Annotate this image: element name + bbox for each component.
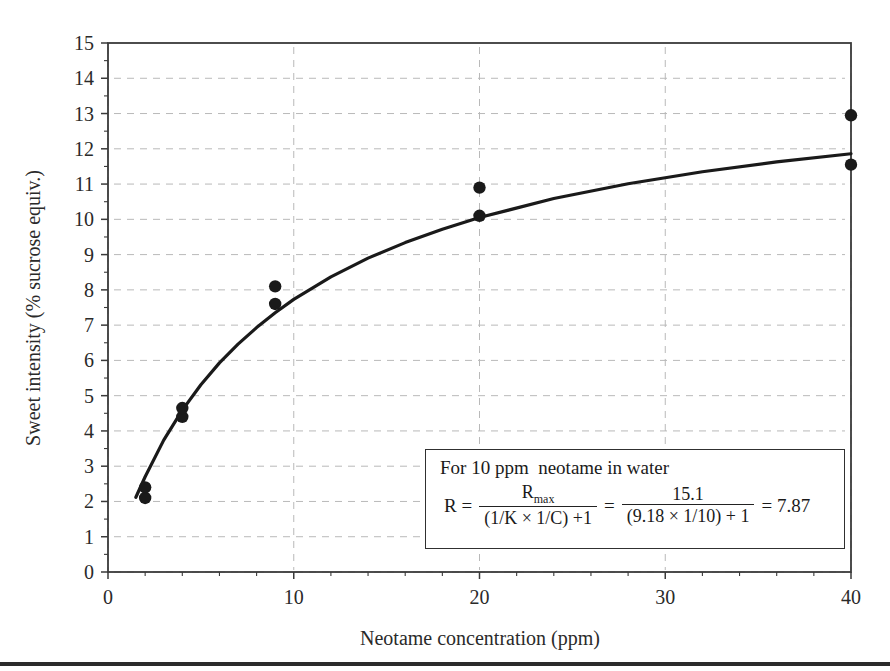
data-point-marker: [473, 181, 485, 193]
y-tick-label: 6: [84, 349, 94, 371]
data-point-marker: [176, 402, 188, 414]
y-tick-label: 0: [84, 561, 94, 583]
y-tick-label: 14: [74, 67, 94, 89]
equation-middle-equals: =: [600, 495, 619, 517]
y-tick-label: 8: [84, 279, 94, 301]
x-tick-label: 10: [284, 586, 304, 608]
equation-fraction-general: Rmax (1/K × 1/C) +1: [479, 483, 597, 529]
equation-fraction-numeric: 15.1 (9.18 × 1/10) + 1: [622, 485, 755, 528]
y-tick-label: 7: [84, 314, 94, 336]
fraction-numerator-rmax: Rmax: [516, 483, 561, 506]
x-tick-label: 40: [841, 586, 861, 608]
y-tick-label: 9: [84, 244, 94, 266]
equation-result: = 7.87: [757, 495, 814, 517]
y-tick-label: 4: [84, 420, 94, 442]
y-axis-title: Sweet intensity (% sucrose equiv.): [22, 170, 45, 446]
x-axis-title: Neotame concentration (ppm): [360, 627, 600, 650]
figure-container: 0123456789101112131415010203040 Neotame …: [0, 0, 890, 671]
y-tick-label: 3: [84, 455, 94, 477]
rmax-base: R: [522, 482, 534, 502]
annotation-line-1: For 10 ppm neotame in water: [440, 458, 834, 479]
data-point-marker: [845, 158, 857, 170]
equation-annotation-box: For 10 ppm neotame in water R = Rmax (1/…: [425, 449, 845, 549]
data-point-marker: [473, 210, 485, 222]
y-tick-label: 13: [74, 103, 94, 125]
x-tick-label: 0: [103, 586, 113, 608]
y-tick-label: 2: [84, 490, 94, 512]
x-tick-label: 20: [470, 586, 490, 608]
y-tick-label: 15: [74, 32, 94, 54]
fraction-numerator-value: 15.1: [666, 485, 710, 505]
x-tick-label: 30: [655, 586, 675, 608]
footer-rule: [0, 662, 890, 666]
equation-lhs: R =: [440, 495, 476, 517]
y-tick-label: 1: [84, 526, 94, 548]
y-tick-label: 5: [84, 385, 94, 407]
y-tick-label: 12: [74, 138, 94, 160]
data-point-marker: [139, 481, 151, 493]
y-tick-label: 11: [75, 173, 94, 195]
data-point-marker: [845, 109, 857, 121]
fraction-denominator-value: (9.18 × 1/10) + 1: [622, 504, 755, 527]
data-point-marker: [139, 492, 151, 504]
rmax-subscript: max: [534, 491, 555, 505]
chart-canvas: 0123456789101112131415010203040 Neotame …: [0, 0, 890, 671]
y-tick-label: 10: [74, 208, 94, 230]
annotation-equation: R = Rmax (1/K × 1/C) +1 = 15.1 (9.18 × 1…: [440, 483, 834, 529]
data-point-marker: [269, 280, 281, 292]
fraction-denominator-general: (1/K × 1/C) +1: [479, 506, 597, 529]
data-point-marker: [269, 298, 281, 310]
data-points: [139, 109, 857, 504]
